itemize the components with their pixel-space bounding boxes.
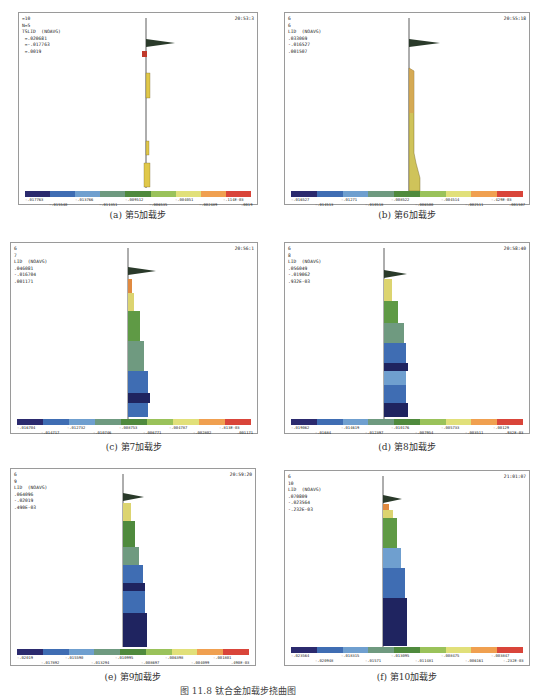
figure-caption: 图 11.8 钛合金加载步挠曲图 [180,684,296,697]
panel-c-caption: (c) 第7加载步 [74,440,194,453]
panel-a: =10N=5TSLID (NOAVG) =.020681 =-.017763 =… [18,12,258,205]
panel-d-deflection-plot [285,243,531,435]
panel-a-caption: (a) 第5加载步 [78,208,198,221]
panel-e-deflection-plot [11,469,257,667]
panel-b-caption: (b) 第6加载步 [347,208,467,221]
panel-e-colorbar-labels: -.02019 -.015590 -.010995 -.006398 -.001… [15,655,251,667]
panel-b-deflection-plot [285,13,531,206]
panel-d: 68LID (NOAVG).056049-.019062.932E-03 20:… [284,242,530,434]
panel-a-deflection-plot [19,13,259,206]
panel-f: 610LID (NOAVG).070809-.023564-.232E-03 2… [284,470,530,666]
panel-c: 67LID (NOAVG).046081-.016704.001171 20:5… [10,242,258,434]
panel-e-caption: (e) 第9加载步 [73,670,193,683]
panel-f-colorbar-labels: -.023564 -.018315 -.013095 -.008475 -.00… [289,653,525,665]
panel-c-deflection-plot [11,243,259,435]
panel-e: 69LID (NOAVG).064096-.02019.490E-03 20:5… [10,468,256,666]
panel-f-deflection-plot [285,471,531,667]
panel-d-colorbar-labels: -.019062 -.014619 -.010176 -.005733 -.00… [289,425,525,437]
panel-d-caption: (d) 第8加载步 [347,440,467,453]
panel-f-caption: (f) 第10加载步 [347,670,467,683]
panel-c-colorbar-labels: -.016704 -.012732 -.008753 -.004787 -.81… [15,425,253,437]
panel-b: 66LID (NOAVG).033069-.016527.001507 20:5… [284,12,530,205]
